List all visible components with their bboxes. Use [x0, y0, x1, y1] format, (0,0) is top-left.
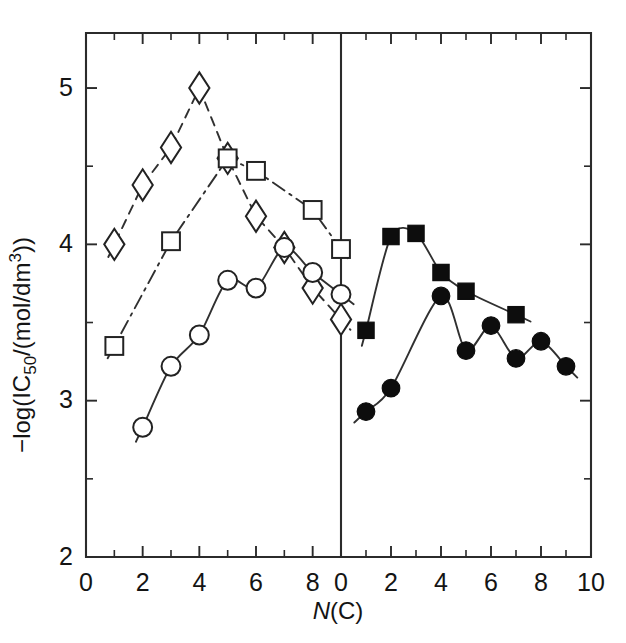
marker-diamond-open — [189, 72, 209, 103]
marker-circle-open — [332, 285, 351, 304]
marker-circle-filled — [432, 287, 450, 305]
marker-square-open — [332, 240, 350, 258]
marker-square-filled — [458, 283, 474, 299]
marker-diamond-open — [246, 201, 266, 232]
marker-circle-filled — [507, 350, 525, 368]
x-tick-label: 2 — [136, 568, 150, 596]
marker-circle-filled — [557, 357, 575, 375]
marker-circle-filled — [457, 342, 475, 360]
marker-square-open — [162, 232, 180, 250]
x-tick-label: 6 — [249, 568, 263, 596]
marker-square-filled — [358, 322, 374, 338]
series-markers-open-circle — [133, 238, 350, 437]
figure-container: 0246802468102345 N(C) −log(IC50/(mol/dm3… — [0, 0, 626, 643]
marker-circle-filled — [357, 403, 375, 421]
x-axis-title: N(C) — [313, 597, 364, 624]
marker-diamond-open — [331, 304, 351, 335]
marker-square-filled — [383, 228, 399, 244]
marker-diamond-open — [104, 229, 124, 260]
svg-text:−log(IC50/(mol/dm3)): −log(IC50/(mol/dm3)) — [6, 237, 40, 453]
marker-circle-open — [303, 263, 322, 282]
x-tick-label: 0 — [334, 568, 348, 596]
y-tick-label: 5 — [59, 73, 73, 101]
y-tick-label: 2 — [59, 542, 73, 570]
x-tick-label: 2 — [384, 568, 398, 596]
marker-circle-open — [275, 238, 294, 257]
series-filled-square — [362, 228, 531, 346]
marker-square-open — [247, 162, 265, 180]
x-tick-label: 6 — [484, 568, 498, 596]
x-tick-label: 8 — [534, 568, 548, 596]
y-tick-label: 3 — [59, 385, 73, 413]
y-tick-label: 4 — [59, 229, 73, 257]
marker-circle-open — [162, 357, 181, 376]
marker-circle-open — [190, 326, 209, 345]
marker-square-filled — [508, 307, 524, 323]
x-tick-label: 0 — [79, 568, 93, 596]
tick-labels: 0246802468102345 — [59, 73, 605, 596]
marker-square-filled — [408, 225, 424, 241]
marker-square-open — [304, 201, 322, 219]
x-tick-label: 8 — [306, 568, 320, 596]
marker-circle-filled — [532, 332, 550, 350]
marker-square-open — [219, 149, 237, 167]
marker-square-filled — [433, 264, 449, 280]
chart-canvas: 0246802468102345 N(C) −log(IC50/(mol/dm3… — [0, 0, 626, 643]
marker-circle-filled — [382, 379, 400, 397]
x-tick-label: 4 — [434, 568, 448, 596]
x-tick-label: 10 — [577, 568, 605, 596]
marker-square-open — [105, 337, 123, 355]
marker-circle-filled — [482, 317, 500, 335]
marker-circle-open — [247, 279, 266, 298]
marker-diamond-open — [133, 169, 153, 200]
y-axis-title: −log(IC50/(mol/dm3)) — [6, 237, 40, 453]
series-markers-filled-circle — [357, 287, 575, 420]
x-tick-label: 4 — [192, 568, 206, 596]
marker-circle-open — [133, 418, 152, 437]
marker-circle-open — [218, 271, 237, 290]
series-line-filled-square — [362, 228, 531, 346]
